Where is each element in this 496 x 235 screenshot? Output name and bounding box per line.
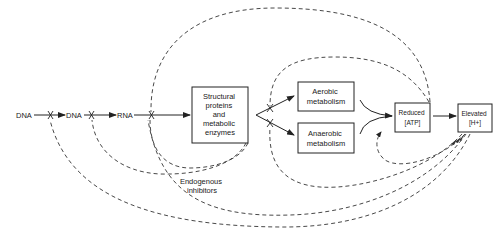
arrow-aerobic-to-atp [360, 100, 392, 116]
node-dna-1: DNA [16, 111, 32, 120]
node-dna-2: DNA [66, 111, 82, 120]
feedback-h-to-replication [50, 120, 470, 227]
arrow-to-aerobic [256, 96, 294, 115]
node-rna: RNA [117, 111, 133, 120]
node-anaerobic-metabolism [298, 123, 354, 153]
arrow-to-anaerobic [256, 115, 294, 135]
feedback-h-to-atp [377, 132, 465, 164]
pathway-diagram: DNA DNA RNA Structural proteins and meta… [0, 0, 496, 235]
node-elevated-h [458, 104, 492, 132]
arrow-anaerobic-to-atp [360, 116, 392, 134]
node-reduced-atp [395, 103, 430, 132]
node-anaerobic-label: Anaerobic metabolism [307, 129, 345, 148]
inhibition-mark-icon [267, 104, 273, 112]
node-aerobic-label: Aerobic metabolism [307, 87, 345, 106]
